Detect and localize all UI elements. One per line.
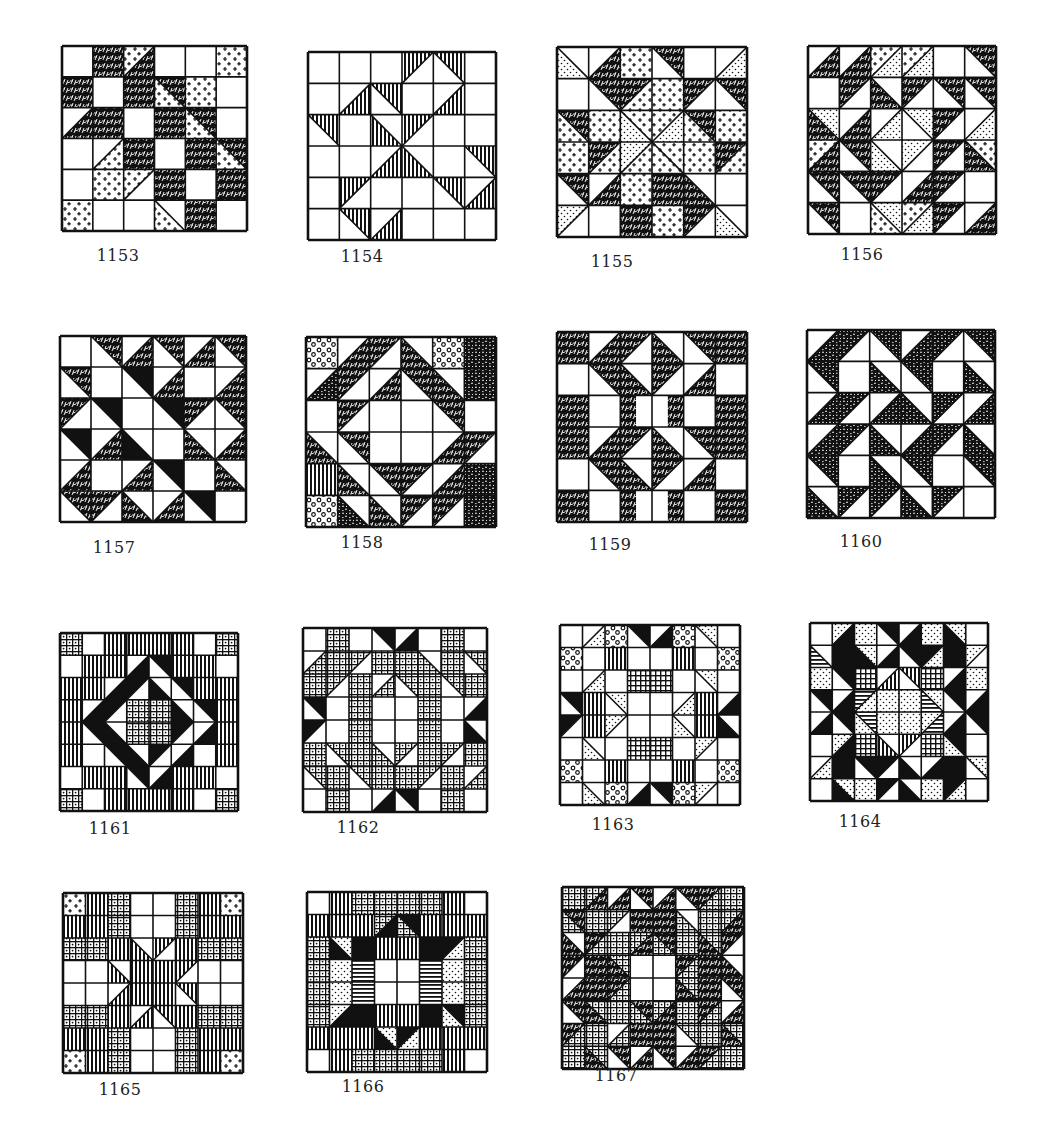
quilt-patch — [442, 915, 465, 938]
quilt-patch — [464, 789, 487, 812]
quilt-patch — [832, 712, 854, 734]
quilt-patch — [715, 427, 747, 459]
quilt-patch — [442, 1027, 465, 1050]
quilt-patch — [721, 1001, 744, 1024]
quilt-patch — [171, 722, 193, 744]
quilt-patch — [807, 330, 838, 361]
quilt-patch — [965, 203, 996, 234]
quilt-patch — [583, 738, 606, 761]
quilt-patch — [82, 655, 104, 677]
quilt-patch — [921, 734, 943, 756]
quilt-patch — [62, 200, 93, 231]
quilt-patch — [855, 757, 877, 779]
quilt-patch — [839, 46, 870, 77]
quilt-patch — [349, 766, 372, 789]
quilt-patch — [349, 628, 372, 651]
quilt-patch — [560, 760, 583, 783]
block-number-label: 1158 — [302, 533, 422, 552]
quilt-patch — [60, 744, 82, 766]
quilt-patch — [560, 693, 583, 716]
quilt-patch — [699, 1001, 722, 1024]
quilt-patch — [653, 887, 676, 910]
quilt-patch — [86, 983, 109, 1006]
quilt-patch — [585, 910, 608, 933]
quilt-patch — [699, 887, 722, 910]
quilt-patch — [131, 893, 154, 916]
quilt-patch — [871, 77, 902, 108]
quilt-patch — [339, 52, 370, 83]
quilt-patch — [810, 668, 832, 690]
quilt-patch — [808, 203, 839, 234]
quilt-patch — [715, 205, 747, 237]
quilt-patch — [349, 789, 372, 812]
quilt-patch — [303, 789, 326, 812]
quilt-patch — [221, 938, 244, 961]
quilt-patch — [442, 982, 465, 1005]
quilt-patch — [352, 1050, 375, 1073]
quilt-patch — [899, 668, 921, 690]
quilt-patch — [184, 460, 215, 491]
quilt-patch — [60, 700, 82, 722]
quilt-patch — [589, 427, 621, 459]
quilt-patch — [628, 715, 651, 738]
quilt-patch — [215, 367, 246, 398]
quilt-patch — [86, 1006, 109, 1029]
quilt-patch — [155, 200, 186, 231]
quilt-patch — [127, 700, 149, 722]
quilt-patch — [124, 200, 155, 231]
quilt-patch — [420, 915, 443, 938]
quilt-patch — [933, 171, 964, 202]
quilt-patch — [326, 789, 349, 812]
quilt-patch — [401, 495, 433, 527]
quilt-patch — [122, 336, 153, 367]
quilt-patch — [82, 722, 104, 744]
quilt-patch — [721, 978, 744, 1001]
block-number-label: 1167 — [556, 1066, 676, 1085]
quilt-patch — [871, 171, 902, 202]
quilt-patch — [108, 983, 131, 1006]
quilt-patch — [131, 1051, 154, 1074]
quilt-patch — [628, 783, 651, 806]
quilt-patch — [620, 395, 652, 427]
quilt-patch — [715, 142, 747, 174]
quilt-patch — [650, 648, 673, 671]
quilt-patch — [153, 398, 184, 429]
quilt-patch — [401, 369, 433, 401]
quilt-patch — [194, 655, 216, 677]
quilt-block-drawing — [807, 330, 995, 518]
quilt-patch — [589, 174, 621, 206]
quilt-patch — [901, 455, 932, 486]
quilt-patch — [465, 52, 496, 83]
quilt-patch — [557, 332, 589, 364]
quilt-patch — [464, 495, 496, 527]
quilt-patch — [375, 892, 398, 915]
block-number-label: 1161 — [50, 819, 170, 838]
quilt-patch — [464, 464, 496, 496]
quilt-patch — [194, 767, 216, 789]
quilt-patch — [395, 720, 418, 743]
quilt-patch — [562, 978, 585, 1001]
quilt-patch — [153, 367, 184, 398]
quilt-patch — [899, 623, 921, 645]
quilt-patch — [810, 734, 832, 756]
quilt-patch — [605, 760, 628, 783]
quilt-patch — [330, 915, 353, 938]
quilt-patch — [375, 960, 398, 983]
quilt-patch — [127, 633, 149, 655]
quilt-patch — [105, 767, 127, 789]
quilt-patch — [877, 623, 899, 645]
quilt-patch — [562, 910, 585, 933]
quilt-patch — [585, 887, 608, 910]
quilt-patch — [901, 330, 932, 361]
quilt-patch — [605, 670, 628, 693]
quilt-patch — [964, 487, 995, 518]
quilt-patch — [108, 893, 131, 916]
quilt-patch — [630, 887, 653, 910]
quilt-patch — [901, 424, 932, 455]
quilt-patch — [855, 690, 877, 712]
quilt-patch — [464, 337, 496, 369]
quilt-patch — [352, 892, 375, 915]
quilt-block-drawing — [557, 332, 747, 522]
quilt-block-drawing — [307, 892, 487, 1072]
quilt-patch — [560, 648, 583, 671]
